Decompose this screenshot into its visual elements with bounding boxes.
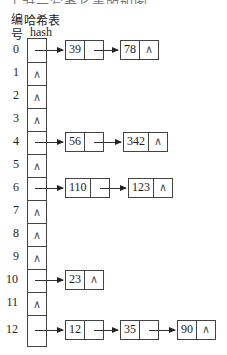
pointer-arrow — [35, 188, 63, 189]
pointer-arrow — [35, 142, 63, 143]
null-pointer-icon: ∧ — [85, 271, 103, 289]
node-value: 56 — [66, 133, 85, 151]
bucket-slot: ∧ — [28, 154, 46, 178]
bucket-slot: ∧ — [28, 246, 46, 270]
list-node: 90∧ — [177, 320, 216, 340]
node-value: 123 — [129, 179, 154, 197]
list-node: 342∧ — [123, 132, 168, 152]
pointer-arrow — [94, 142, 121, 143]
bucket-slot — [28, 131, 46, 155]
bucket-slot — [28, 39, 46, 62]
null-pointer-icon: ∧ — [140, 41, 158, 59]
bucket-index: 2 — [0, 88, 19, 103]
bucket-slot — [28, 269, 46, 293]
bucket-index: 9 — [0, 249, 19, 264]
bucket-index: 7 — [0, 203, 19, 218]
bucket-index: 1 — [0, 65, 19, 80]
bucket-index: 8 — [0, 226, 19, 241]
pointer-arrow — [100, 188, 126, 189]
node-value: 39 — [66, 41, 85, 59]
pointer-arrow — [35, 330, 63, 331]
bucket-index: 0 — [0, 42, 19, 57]
pointer-arrow — [35, 50, 63, 51]
bucket-slot: ∧ — [28, 108, 46, 132]
node-value: 35 — [121, 321, 140, 339]
list-node: 123∧ — [128, 178, 173, 198]
pointer-arrow — [35, 280, 63, 281]
bucket-slot: ∧ — [28, 200, 46, 224]
null-pointer-icon: ∧ — [154, 179, 172, 197]
bucket-index: 6 — [0, 180, 19, 195]
node-value: 342 — [124, 133, 149, 151]
index-column-label: 编号 — [11, 13, 25, 43]
bucket-index: 4 — [0, 134, 19, 149]
node-value: 12 — [66, 321, 85, 339]
node-value: 23 — [66, 271, 85, 289]
bucket-slot — [28, 315, 46, 347]
bucket-slot: ∧ — [28, 85, 46, 109]
bucket-index: 5 — [0, 157, 19, 172]
list-node: 23∧ — [65, 270, 104, 290]
node-value: 110 — [66, 179, 91, 197]
node-value: 78 — [121, 41, 140, 59]
bucket-slot: ∧ — [28, 223, 46, 247]
bucket-slot: ∧ — [28, 62, 46, 86]
node-value: 90 — [178, 321, 197, 339]
pointer-arrow — [149, 330, 175, 331]
bucket-index: 12 — [0, 322, 18, 337]
bucket-slot — [28, 177, 46, 201]
null-pointer-icon: ∧ — [149, 133, 167, 151]
pointer-arrow — [94, 330, 118, 331]
bucket-index: 10 — [0, 272, 18, 287]
pointer-arrow — [94, 50, 118, 51]
list-node: 78∧ — [120, 40, 159, 60]
cropped-caption-text: 于对示写希长表的如图……所示 — [8, 0, 178, 4]
null-pointer-icon: ∧ — [197, 321, 215, 339]
bucket-index: 11 — [0, 295, 18, 310]
hash-array: ∧∧∧∧∧∧∧∧ — [27, 38, 47, 347]
bucket-index: 3 — [0, 111, 19, 126]
bucket-slot: ∧ — [28, 292, 46, 316]
